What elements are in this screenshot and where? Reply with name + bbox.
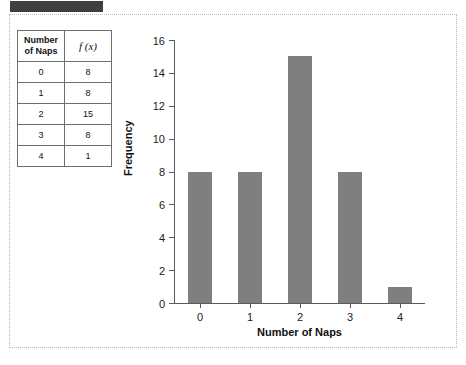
y-tick-label: 0 [159,298,165,310]
x-tick-label: 0 [197,311,203,323]
x-tick-label: 3 [347,311,353,323]
table-cell-naps: 0 [18,62,65,83]
y-tick-label: 16 [153,35,165,47]
table-header-naps-line1: Number [24,35,58,45]
table-cell-naps: 2 [18,104,65,125]
table-cell-naps: 4 [18,146,65,167]
y-tick: 12 [169,106,174,107]
y-tick: 8 [169,172,174,173]
y-tick-mark [169,73,174,74]
y-tick: 0 [169,303,174,304]
bar [388,287,412,303]
y-tick-label: 6 [159,199,165,211]
y-tick: 2 [169,270,174,271]
y-tick-label: 10 [153,133,165,145]
y-tick-label: 12 [153,100,165,112]
table-header: Number of Naps f (x) [18,31,112,62]
y-tick-mark [169,106,174,107]
table-header-row: Number of Naps f (x) [18,31,112,62]
table-body: 08182153841 [18,62,112,167]
x-tick-label: 2 [297,311,303,323]
y-tick-label: 14 [153,67,165,79]
x-tick [300,304,301,308]
y-tick: 4 [169,237,174,238]
y-axis-label: Frequency [122,120,134,176]
y-tick-mark [169,270,174,271]
y-tick-label: 8 [159,166,165,178]
table-cell-fx: 8 [65,62,112,83]
x-tick-label: 1 [247,311,253,323]
bar-series [175,40,425,303]
top-marker-bar [10,1,103,12]
table-cell-naps: 3 [18,125,65,146]
y-tick-mark [169,172,174,173]
table-cell-fx: 15 [65,104,112,125]
y-tick-mark [169,303,174,304]
y-tick-mark [169,204,174,205]
y-tick: 16 [169,40,174,41]
bar [188,172,212,304]
table-row: 215 [18,104,112,125]
x-tick [350,304,351,308]
x-tick-label: 4 [397,311,403,323]
y-tick-mark [169,40,174,41]
table-row: 41 [18,146,112,167]
y-tick-label: 4 [159,232,165,244]
x-tick [200,304,201,308]
table-row: 38 [18,125,112,146]
table-cell-naps: 1 [18,83,65,104]
y-tick-mark [169,139,174,140]
bar [238,172,262,304]
frequency-table: Number of Naps f (x) 08182153841 [17,30,112,167]
y-tick-mark [169,237,174,238]
table-cell-fx: 8 [65,125,112,146]
table-header-naps-line2: of Naps [24,46,57,56]
x-tick [400,304,401,308]
y-tick: 6 [169,204,174,205]
table-cell-fx: 1 [65,146,112,167]
y-tick: 10 [169,139,174,140]
x-axis-label: Number of Naps [174,326,425,338]
table-header-naps: Number of Naps [18,31,65,62]
bar [288,56,312,303]
bar [338,172,362,304]
x-tick [250,304,251,308]
table-row: 08 [18,62,112,83]
table-header-fx: f (x) [65,31,112,62]
y-tick: 14 [169,73,174,74]
table-row: 18 [18,83,112,104]
y-tick-label: 2 [159,265,165,277]
bar-chart: Frequency 0246810121416 01234 Number of … [128,26,448,326]
table-cell-fx: 8 [65,83,112,104]
